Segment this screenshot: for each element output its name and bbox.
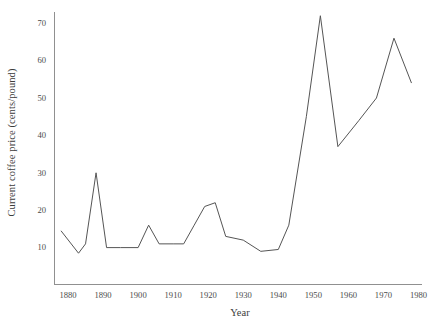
plot-area: 10203040506070 [54,12,422,285]
x-tick-label: 1930 [223,291,263,300]
y-tick-label: 20 [20,206,46,215]
x-axis-label: Year [62,307,418,318]
chart-svg [54,12,422,285]
y-tick-label: 70 [20,19,46,28]
y-tick-label: 10 [20,243,46,252]
x-tick-label: 1880 [48,291,88,300]
y-axis-label: Current coffee price (cents/pound) [0,0,22,285]
y-tick-label: 30 [20,169,46,178]
x-tick-label: 1970 [363,291,403,300]
y-tick-label: 60 [20,56,46,65]
x-tick-label: 1980 [398,291,434,300]
x-tick-label: 1920 [188,291,228,300]
data-series-line [61,16,411,253]
y-tick-label: 50 [20,94,46,103]
x-tick-label: 1900 [118,291,158,300]
coffee-price-line-chart: Current coffee price (cents/pound) 10203… [0,0,434,335]
y-tick-label: 40 [20,131,46,140]
x-tick-label: 1910 [153,291,193,300]
axes [54,12,422,285]
x-tick-label: 1890 [83,291,123,300]
x-tick-label: 1960 [328,291,368,300]
x-tick-label: 1940 [258,291,298,300]
x-tick-label: 1950 [293,291,333,300]
